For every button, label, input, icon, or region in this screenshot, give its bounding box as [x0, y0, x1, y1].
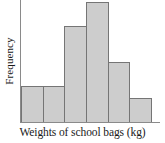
bar-series	[21, 0, 152, 122]
histogram-bar	[129, 98, 152, 122]
histogram-bar	[64, 26, 87, 122]
histogram-bar	[86, 2, 109, 122]
histogram-bar	[43, 86, 66, 122]
histogram-figure: Frequency Weights of school bags (kg)	[0, 0, 165, 143]
x-axis-label: Weights of school bags (kg)	[0, 126, 165, 138]
histogram-bar	[21, 86, 44, 122]
y-axis-label: Frequency	[0, 0, 18, 122]
histogram-bar	[108, 62, 131, 122]
x-axis-line	[20, 122, 160, 123]
y-axis-label-text: Frequency	[3, 37, 15, 84]
plot-area	[20, 0, 160, 123]
